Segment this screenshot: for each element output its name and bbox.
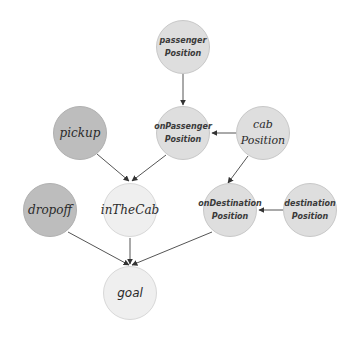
- node-dropoff[interactable]: dropoff: [23, 183, 77, 237]
- node-destination-position[interactable]: destination Position: [283, 183, 337, 237]
- node-in-the-cab[interactable]: inTheCab: [103, 183, 157, 237]
- node-label-line2: Position: [292, 210, 329, 223]
- edge-dropoff-to-goal: [68, 232, 129, 265]
- edge-onpassenger-to-inthecab: [132, 155, 166, 181]
- node-label-line1: onDestination: [198, 197, 261, 210]
- node-label-line2: Position: [241, 133, 285, 149]
- node-pickup[interactable]: pickup: [53, 106, 107, 160]
- edge-cab-to-ondestination: [228, 156, 248, 183]
- edge-ondestination-to-goal: [132, 232, 212, 265]
- node-label: inTheCab: [101, 203, 159, 217]
- node-label-line2: Position: [165, 133, 202, 146]
- node-label-line1: destination: [284, 197, 335, 210]
- node-passenger-position[interactable]: passenger Position: [156, 20, 210, 74]
- node-on-passenger-position[interactable]: onPassenger Position: [156, 106, 210, 160]
- node-label: dropoff: [28, 203, 72, 217]
- node-label: goal: [117, 286, 143, 300]
- node-label-line2: Position: [165, 47, 202, 60]
- edge-pickup-to-inthecab: [97, 154, 129, 181]
- node-label-line1: passenger: [160, 34, 207, 47]
- node-on-destination-position[interactable]: onDestination Position: [203, 183, 257, 237]
- node-cab-position[interactable]: cab Position: [236, 106, 290, 160]
- node-label: pickup: [60, 126, 101, 140]
- node-label-line1: onPassenger: [154, 120, 212, 133]
- node-goal[interactable]: goal: [103, 266, 157, 320]
- node-label-line1: cab: [253, 117, 273, 133]
- node-label-line2: Position: [212, 210, 249, 223]
